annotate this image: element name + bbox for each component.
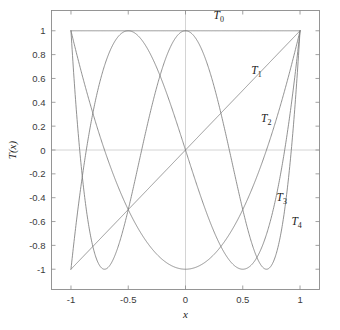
x-tick-label: 0: [183, 294, 188, 305]
y-tick-label: -0.6: [29, 216, 45, 227]
y-tick-label: -1: [37, 264, 45, 275]
x-tick-label: 1: [297, 294, 302, 305]
y-tick-label: 0.8: [32, 49, 45, 60]
chart-svg: 10.80.60.40.20-0.2-0.4-0.6-0.8-1-1-0.500…: [0, 0, 340, 330]
y-tick-label: -0.2: [29, 168, 45, 179]
x-tick-label: -1: [67, 294, 75, 305]
plot-background: [0, 0, 340, 330]
chebyshev-polynomial-figure: 10.80.60.40.20-0.2-0.4-0.6-0.8-1-1-0.500…: [0, 0, 340, 330]
x-tick-label: -0.5: [120, 294, 136, 305]
y-tick-label: -0.8: [29, 240, 45, 251]
y-tick-label: 0.2: [32, 121, 45, 132]
y-axis-title: T(x): [6, 141, 19, 160]
y-tick-label: 0.4: [32, 97, 45, 108]
y-tick-label: 1: [40, 25, 45, 36]
y-tick-label: 0.6: [32, 73, 45, 84]
x-axis-title: x: [182, 308, 188, 320]
y-tick-label: -0.4: [29, 192, 45, 203]
x-tick-label: 0.5: [236, 294, 249, 305]
y-tick-label: 0: [40, 145, 45, 156]
